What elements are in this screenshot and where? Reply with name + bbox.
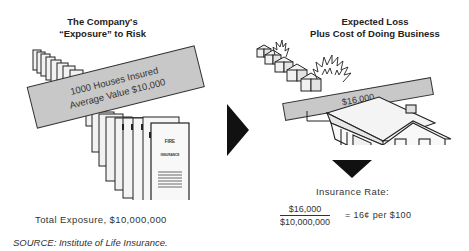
policy-label-fire: FIRE bbox=[165, 139, 175, 144]
policy-label-insurance: INSURANCE bbox=[161, 153, 180, 157]
policy-stack-illustration: FIRE INSURANCE 1000 Houses Insured Avera… bbox=[0, 0, 230, 200]
right-title-line1: Expected Loss bbox=[300, 16, 450, 28]
rate-denominator: $10,000,000 bbox=[280, 216, 330, 227]
total-exposure-caption: Total Exposure, $10,000,000 bbox=[35, 214, 167, 225]
insurance-rate-label: Insurance Rate: bbox=[316, 186, 389, 197]
right-arrow-icon bbox=[225, 100, 255, 160]
source-note: SOURCE: Institute of Life Insurance. bbox=[13, 237, 168, 248]
rate-result: = 16¢ per $100 bbox=[345, 210, 411, 220]
down-arrow-icon bbox=[330, 158, 374, 180]
rate-fraction: $16,000 $10,000,000 bbox=[280, 204, 330, 227]
rate-numerator: $16,000 bbox=[280, 204, 330, 216]
expected-loss-illustration: $16,000 bbox=[255, 35, 469, 145]
